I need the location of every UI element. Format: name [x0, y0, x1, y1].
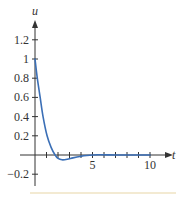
x-axis-label: t [172, 148, 176, 162]
y-tick-label: 1.2 [14, 33, 29, 47]
y-axis-label: u [32, 4, 38, 18]
y-tick-label: 0.4 [14, 110, 29, 124]
footer-rule [30, 192, 176, 194]
x-tick-label: 10 [144, 158, 156, 172]
y-tick-label: 0.2 [14, 129, 29, 143]
data-curve [35, 59, 150, 160]
line-chart: tu 5101.210.80.60.40.2−0.2 [0, 0, 180, 197]
x-tick-label: 5 [90, 158, 96, 172]
y-axis-arrow-icon [32, 20, 38, 28]
y-tick-label: 0.8 [14, 71, 29, 85]
tick-labels: 5101.210.80.60.40.2−0.2 [7, 33, 156, 181]
y-tick-label: −0.2 [7, 167, 29, 181]
ticks [32, 40, 150, 174]
y-tick-label: 0.6 [14, 90, 29, 104]
y-tick-label: 1 [23, 52, 29, 66]
